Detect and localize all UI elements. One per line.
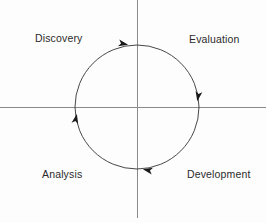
label-development: Development — [187, 168, 251, 180]
label-discovery: Discovery — [35, 32, 82, 44]
arrow-right-icon — [194, 91, 202, 102]
label-analysis: Analysis — [42, 168, 82, 180]
label-evaluation: Evaluation — [189, 33, 240, 45]
diagram-canvas: Discovery Evaluation Analysis Developmen… — [0, 0, 266, 223]
